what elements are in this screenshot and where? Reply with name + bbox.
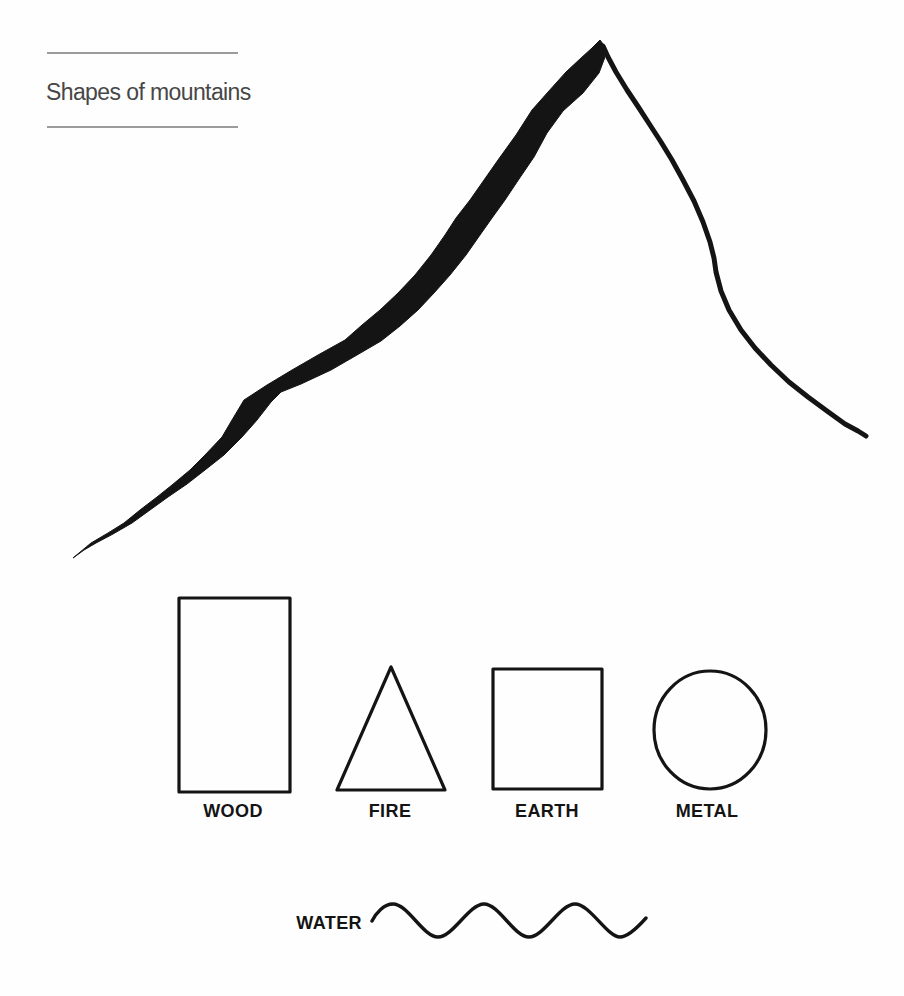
label-water: WATER bbox=[242, 913, 362, 934]
metal-shape bbox=[650, 667, 772, 795]
label-fire: FIRE bbox=[330, 801, 450, 822]
fire-shape bbox=[331, 663, 453, 796]
mountain-illustration bbox=[0, 0, 904, 996]
label-earth: EARTH bbox=[487, 801, 607, 822]
label-metal: METAL bbox=[647, 801, 767, 822]
earth-square bbox=[493, 669, 602, 789]
mountain-right-ridge-line bbox=[603, 46, 866, 436]
book-page: Shapes of mountains WOOD FIRE EARTH META… bbox=[0, 0, 904, 996]
water-wave bbox=[372, 904, 646, 937]
water-shape bbox=[366, 896, 656, 946]
wood-shape bbox=[175, 594, 295, 797]
mountain-left-slope-stroke bbox=[73, 40, 605, 558]
fire-triangle bbox=[337, 667, 445, 790]
earth-shape bbox=[489, 665, 609, 795]
wood-rectangle bbox=[179, 598, 290, 792]
label-wood: WOOD bbox=[173, 801, 293, 822]
metal-circle bbox=[654, 671, 766, 789]
